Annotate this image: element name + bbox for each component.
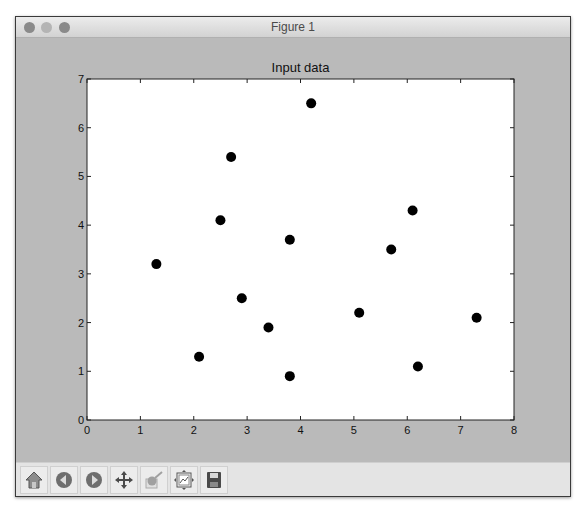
- x-tick-label: 3: [244, 424, 250, 436]
- window-title: Figure 1: [16, 20, 570, 34]
- x-tick-label: 0: [84, 424, 90, 436]
- data-point: [306, 98, 316, 108]
- back-button[interactable]: [50, 466, 78, 494]
- data-point: [413, 361, 423, 371]
- data-point: [263, 322, 273, 332]
- data-point: [354, 308, 364, 318]
- axes-area: [87, 79, 514, 420]
- data-point: [386, 245, 396, 255]
- x-tick-label: 1: [137, 424, 143, 436]
- home-button[interactable]: [20, 466, 48, 494]
- pan-button[interactable]: [110, 466, 138, 494]
- data-point: [408, 206, 418, 216]
- data-point: [215, 215, 225, 225]
- y-tick-label: 0: [78, 414, 84, 426]
- x-tick-label: 5: [351, 424, 357, 436]
- figure-canvas[interactable]: Input data01234567801234567: [16, 38, 570, 462]
- y-tick-label: 7: [78, 73, 84, 85]
- subplots-icon: [174, 470, 194, 490]
- zoom-rect-icon: [144, 470, 164, 490]
- y-tick-label: 6: [78, 122, 84, 134]
- x-tick-label: 7: [458, 424, 464, 436]
- save-button[interactable]: [200, 466, 228, 494]
- title-bar[interactable]: Figure 1: [16, 17, 570, 38]
- y-tick-label: 3: [78, 268, 84, 280]
- x-tick-label: 6: [404, 424, 410, 436]
- x-tick-label: 8: [511, 424, 517, 436]
- y-tick-label: 2: [78, 317, 84, 329]
- move-icon: [114, 470, 134, 490]
- data-point: [237, 293, 247, 303]
- scatter-plot: Input data01234567801234567: [16, 38, 570, 462]
- zoom-rect-button[interactable]: [140, 466, 168, 494]
- y-tick-label: 4: [78, 219, 84, 231]
- home-icon: [24, 470, 44, 490]
- data-point: [151, 259, 161, 269]
- x-tick-label: 4: [297, 424, 303, 436]
- y-tick-label: 5: [78, 170, 84, 182]
- data-point: [285, 235, 295, 245]
- data-point: [194, 352, 204, 362]
- data-point: [226, 152, 236, 162]
- y-tick-label: 1: [78, 365, 84, 377]
- figure-window: Figure 1 Input data01234567801234567: [15, 16, 571, 497]
- floppy-disk-icon: [204, 470, 224, 490]
- forward-arrow-icon: [84, 470, 104, 490]
- chart-title: Input data: [272, 60, 331, 75]
- forward-button[interactable]: [80, 466, 108, 494]
- back-arrow-icon: [54, 470, 74, 490]
- data-point: [285, 371, 295, 381]
- subplots-button[interactable]: [170, 466, 198, 494]
- navigation-toolbar: [16, 462, 570, 496]
- x-tick-label: 2: [191, 424, 197, 436]
- data-point: [472, 313, 482, 323]
